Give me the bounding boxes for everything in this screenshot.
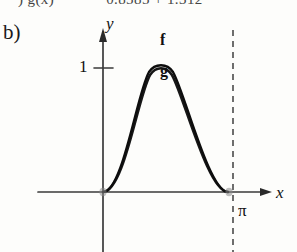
curve-g: [103, 68, 228, 192]
curve-label-g: g: [160, 62, 168, 80]
x-tick-label-pi: π: [238, 201, 247, 221]
y-tick-label-one: 1: [79, 57, 88, 77]
zero-point-pi: [225, 188, 232, 196]
x-axis: [38, 188, 272, 196]
y-axis-label: y: [106, 14, 114, 34]
figure-page: ) g(x)0.8585 + 1.312 b): [0, 0, 297, 252]
y-axis: [99, 28, 107, 252]
x-axis-label: x: [276, 183, 284, 203]
plot-area: [0, 0, 297, 252]
zero-point-origin: [99, 188, 106, 196]
curve-label-f: f: [160, 31, 165, 49]
